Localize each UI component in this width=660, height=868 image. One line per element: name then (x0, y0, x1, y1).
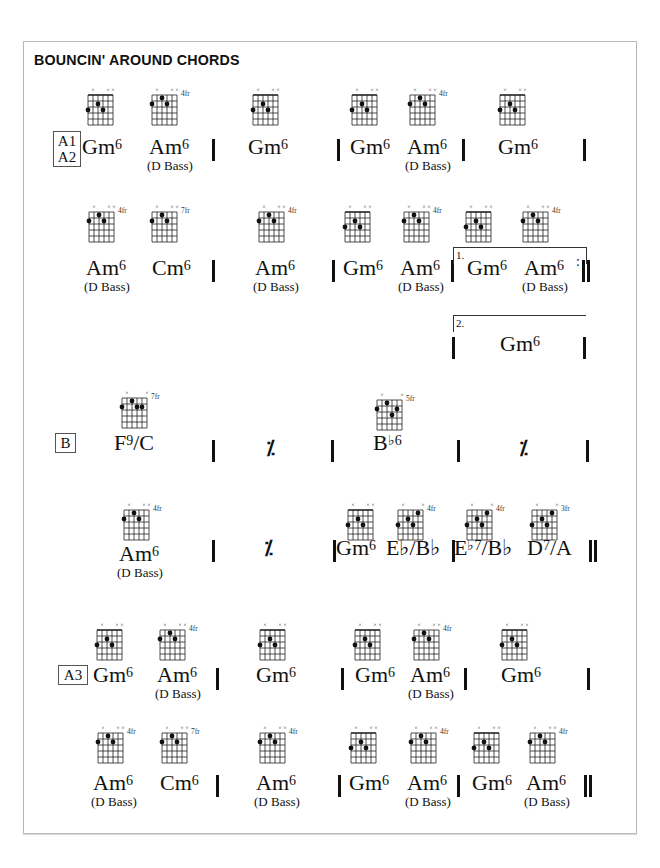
chord-name: Am6 (256, 772, 296, 794)
barline (216, 668, 219, 690)
svg-text:×: × (282, 204, 285, 210)
chord-name: Am6 (410, 664, 450, 686)
svg-text:×: × (358, 622, 361, 628)
svg-text:×: × (116, 725, 119, 731)
chord-diagram-icon: ×× (119, 390, 150, 430)
double-barline (582, 260, 591, 282)
chord-name: Gm6 (343, 257, 383, 279)
chord-name: Gm6 (349, 772, 389, 794)
svg-text:×: × (422, 204, 425, 210)
svg-text:×: × (433, 87, 436, 93)
fret-label: 5fr (406, 394, 415, 403)
svg-text:×: × (180, 725, 183, 731)
svg-text:×: × (503, 87, 506, 93)
bass-note: (D Bass) (84, 279, 130, 295)
svg-text:×: × (106, 87, 109, 93)
svg-text:×: × (277, 204, 280, 210)
svg-text:×: × (283, 622, 286, 628)
bass-note: (D Bass) (155, 686, 201, 702)
svg-text:×: × (520, 622, 523, 628)
svg-text:×: × (100, 622, 103, 628)
barline (587, 668, 590, 690)
svg-text:×: × (263, 725, 266, 731)
svg-text:×: × (505, 622, 508, 628)
svg-text:×: × (185, 725, 188, 731)
bass-note: (D Bass) (147, 158, 193, 174)
barline (337, 139, 340, 161)
svg-text:×: × (276, 87, 279, 93)
chord-name: D7/A (527, 537, 572, 559)
svg-text:×: × (525, 622, 528, 628)
chord-diagram-icon: ××× (411, 622, 442, 662)
svg-text:×: × (163, 622, 166, 628)
chord-diagram-icon: ××× (159, 725, 190, 765)
fret-label: 4fr (439, 89, 448, 98)
svg-text:×: × (145, 390, 148, 396)
chord-diagram-icon: ××× (257, 622, 288, 662)
svg-text:×: × (407, 204, 410, 210)
svg-text:×: × (546, 204, 549, 210)
svg-text:×: × (278, 622, 281, 628)
chord-diagram-icon: ××× (149, 87, 180, 127)
svg-text:×: × (155, 87, 158, 93)
fret-label: 4fr (552, 206, 561, 215)
barline (464, 668, 467, 690)
chord-name: Gm6 (355, 664, 395, 686)
svg-text:×: × (368, 204, 371, 210)
chord-name: Am6 (526, 772, 566, 794)
fret-label: 4fr (153, 504, 162, 513)
fret-label: 4fr (440, 727, 449, 736)
chord-name: Gm6 (93, 664, 133, 686)
svg-text:×: × (375, 87, 378, 93)
chord-name: Gm6 (498, 136, 538, 158)
bass-note: (D Bass) (117, 565, 163, 581)
svg-text:×: × (553, 725, 556, 731)
page-title: BOUNCIN' AROUND CHORDS (34, 51, 240, 69)
bass-note: (D Bass) (522, 279, 568, 295)
fret-label: 4fr (496, 504, 505, 513)
svg-text:×: × (380, 392, 383, 398)
chord-name: Cm6 (152, 257, 191, 279)
ending-2-bracket: 2. (453, 315, 586, 332)
chord-name: Gm6 (248, 136, 288, 158)
chord-name: Gm6 (472, 772, 512, 794)
bass-note: (D Bass) (254, 794, 300, 810)
svg-text:×: × (348, 204, 351, 210)
bass-note: (D Bass) (524, 794, 570, 810)
chord-name: Am6 (149, 136, 189, 158)
bass-note: (D Bass) (408, 686, 454, 702)
svg-text:×: × (256, 87, 259, 93)
svg-text:×: × (121, 725, 124, 731)
svg-text:×: × (437, 622, 440, 628)
svg-text:×: × (374, 725, 377, 731)
svg-text:×: × (92, 204, 95, 210)
svg-text:×: × (378, 622, 381, 628)
svg-text:×: × (477, 725, 480, 731)
chord-name: Gm6 (500, 333, 540, 355)
chord-diagram-icon: ××× (408, 725, 439, 765)
svg-text:×: × (432, 622, 435, 628)
fret-label: 4fr (289, 727, 298, 736)
simile-mark: ⁒ (264, 536, 273, 560)
fret-label: 4fr (118, 206, 127, 215)
svg-text:×: × (183, 622, 186, 628)
section-label-b: B (55, 433, 76, 453)
bass-note: (D Bass) (398, 279, 444, 295)
svg-text:×: × (489, 204, 492, 210)
chord-name: Am6 (407, 136, 447, 158)
section-label-a1-a2: A1A2 (53, 131, 81, 167)
bass-note: (D Bass) (253, 279, 299, 295)
fret-label: 4fr (433, 206, 442, 215)
fret-label: 4fr (559, 727, 568, 736)
fret-label: 3fr (561, 504, 570, 513)
svg-text:×: × (170, 204, 173, 210)
chord-diagram-icon: ××× (157, 622, 188, 662)
barline (586, 440, 589, 462)
chord-name: E♭7/B♭ (454, 537, 512, 559)
svg-text:×: × (107, 204, 110, 210)
barline (583, 337, 586, 359)
chord-diagram-icon: ××× (401, 204, 432, 244)
chord-name: Am6 (400, 257, 440, 279)
svg-text:×: × (351, 502, 354, 508)
svg-text:×: × (548, 725, 551, 731)
